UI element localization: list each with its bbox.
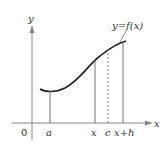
- diagram-canvas: y=f(x) y x 0 a x c x+h: [0, 0, 168, 147]
- y-axis-label: y: [27, 13, 34, 24]
- x-axis-label: x: [154, 118, 160, 129]
- y-axis-arrow-icon: [30, 25, 35, 33]
- function-curve: [40, 41, 126, 92]
- tick-label-c: c: [105, 127, 111, 138]
- curve-label-leader: [120, 31, 126, 42]
- tick-label-x: x: [91, 127, 97, 138]
- tick-label-a: a: [46, 127, 52, 138]
- curve-label: y=f(x): [111, 20, 143, 31]
- tick-label-x-plus-h: x+h: [114, 127, 134, 138]
- origin-label: 0: [21, 127, 27, 138]
- x-axis-arrow-icon: [145, 121, 153, 126]
